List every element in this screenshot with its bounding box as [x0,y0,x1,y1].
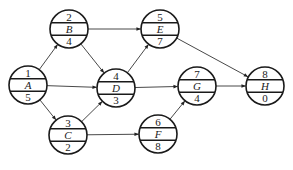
edge-c-to-f [87,134,139,135]
node-top-number: 6 [155,116,161,128]
edge-b-to-d [81,44,104,73]
edge-a-to-d [47,86,97,88]
edge-d-to-g [135,86,178,87]
node-bottom-number: 0 [262,92,268,104]
node-d: 4D3 [97,69,135,107]
nodes-layer: 1A52B43C24D35E76F87G48H0 [9,10,284,154]
node-c: 3C2 [49,116,87,154]
node-b: 2B4 [50,10,88,48]
node-h: 8H0 [246,67,284,105]
node-label: D [111,82,120,94]
edge-a-to-c [40,100,56,120]
edge-c-to-d [82,102,102,122]
node-top-number: 7 [194,68,200,80]
node-label: F [154,128,162,140]
node-top-number: 8 [262,68,268,80]
node-bottom-number: 4 [66,35,72,47]
node-label: B [66,23,73,35]
node-bottom-number: 5 [25,91,31,103]
node-bottom-number: 2 [65,141,71,153]
node-label: H [260,80,270,92]
node-bottom-number: 4 [194,92,200,104]
node-label: A [24,79,32,91]
node-top-number: 2 [66,11,72,23]
node-label: C [64,129,72,141]
node-bottom-number: 8 [155,140,161,152]
node-e: 5E7 [141,10,179,48]
node-label: G [193,80,201,92]
node-g: 7G4 [178,67,216,105]
edge-d-to-e [127,45,148,73]
node-top-number: 5 [157,11,163,23]
node-label: E [156,23,164,35]
node-bottom-number: 3 [113,94,119,106]
node-top-number: 1 [25,67,31,79]
node-top-number: 4 [113,70,119,82]
node-f: 6F8 [139,115,177,153]
node-bottom-number: 7 [157,35,163,47]
network-diagram: 1A52B43C24D35E76F87G48H0 [0,0,293,170]
edge-a-to-b [39,45,57,70]
node-top-number: 3 [65,117,71,129]
node-a: 1A5 [9,66,47,104]
edge-f-to-g [170,101,185,119]
